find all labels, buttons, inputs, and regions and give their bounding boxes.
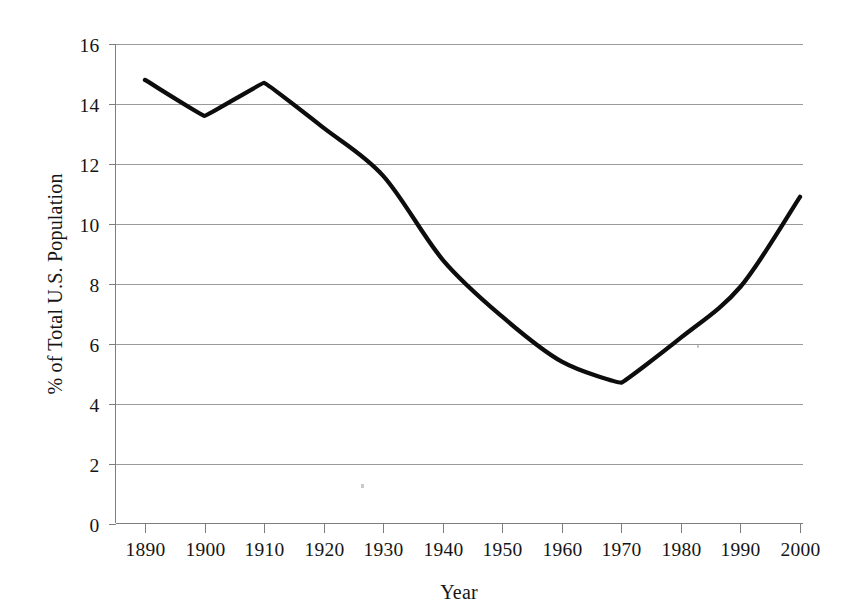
scan-speck <box>697 345 699 348</box>
x-tick-label: 1960 <box>543 539 583 560</box>
scan-speck <box>361 484 364 488</box>
y-axis-title: % of Total U.S. Population <box>44 173 67 394</box>
y-tick-label: 12 <box>80 155 100 176</box>
y-tick-label: 2 <box>90 455 100 476</box>
x-tick-label: 1930 <box>364 539 404 560</box>
x-tick-label: 1900 <box>186 539 226 560</box>
y-tick-label: 0 <box>90 515 100 536</box>
y-tick-label: 8 <box>90 275 100 296</box>
x-tick-label: 1970 <box>602 539 642 560</box>
x-tick-label: 1980 <box>662 539 702 560</box>
chart-canvas: 1614121086420 18901900191019201930194019… <box>0 0 856 611</box>
x-tick-label: 1950 <box>483 539 523 560</box>
y-tick-label: 4 <box>90 395 100 416</box>
y-tick-label: 6 <box>90 335 100 356</box>
x-axis-title: Year <box>440 581 478 603</box>
x-tick-label: 1910 <box>245 539 285 560</box>
x-tick-label: 1920 <box>305 539 345 560</box>
y-tick-label: 10 <box>80 215 100 236</box>
x-tick-label: 1890 <box>126 539 166 560</box>
chart-background <box>0 0 856 611</box>
x-tick-label: 2000 <box>781 539 821 560</box>
line-chart: 1614121086420 18901900191019201930194019… <box>0 0 856 611</box>
y-tick-label: 16 <box>80 35 100 56</box>
y-tick-label: 14 <box>80 95 100 116</box>
x-tick-label: 1990 <box>721 539 761 560</box>
x-tick-label: 1940 <box>424 539 464 560</box>
